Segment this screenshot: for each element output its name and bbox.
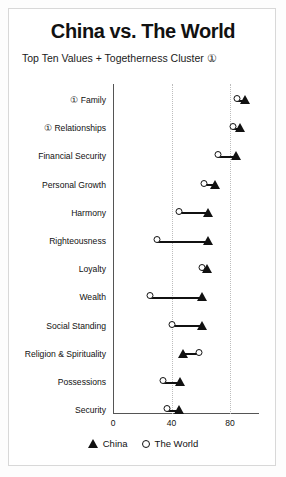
triangle-marker-icon bbox=[175, 377, 185, 386]
circle-marker-icon bbox=[146, 292, 153, 299]
triangle-marker-icon bbox=[235, 123, 245, 132]
category-label: Financial Security bbox=[0, 148, 106, 164]
chart-row: Righteousness bbox=[0, 233, 286, 249]
category-label: Wealth bbox=[0, 289, 106, 305]
circle-marker-icon bbox=[168, 321, 175, 328]
chart-row: ① Relationships bbox=[0, 120, 286, 136]
x-tick-label-0: 0 bbox=[111, 418, 116, 428]
chart-row: Harmony bbox=[0, 205, 286, 221]
triangle-marker-icon bbox=[197, 292, 207, 301]
triangle-marker-icon bbox=[210, 180, 220, 189]
x-tick-label-40: 40 bbox=[167, 418, 176, 428]
circle-marker-icon bbox=[164, 405, 171, 412]
category-label: Righteousness bbox=[0, 233, 106, 249]
circle-marker-icon bbox=[196, 349, 203, 356]
triangle-marker-icon bbox=[88, 439, 98, 448]
triangle-marker-icon bbox=[231, 151, 241, 160]
chart-legend: China The World bbox=[0, 438, 286, 449]
category-label: ① Relationships bbox=[0, 120, 106, 136]
circle-marker-icon bbox=[159, 377, 166, 384]
triangle-marker-icon bbox=[178, 349, 188, 358]
category-label: Harmony bbox=[0, 205, 106, 221]
chart-row: Wealth bbox=[0, 289, 286, 305]
chart-row: Personal Growth bbox=[0, 177, 286, 193]
triangle-marker-icon bbox=[203, 236, 213, 245]
chart-row: Possessions bbox=[0, 374, 286, 390]
x-tick-label-80: 80 bbox=[225, 418, 234, 428]
legend-label-world: The World bbox=[155, 438, 199, 449]
category-label: Social Standing bbox=[0, 318, 106, 334]
category-label: Possessions bbox=[0, 374, 106, 390]
category-label: Loyalty bbox=[0, 261, 106, 277]
plot-area: 04080① Family① RelationshipsFinancial Se… bbox=[0, 0, 286, 477]
triangle-marker-icon bbox=[174, 405, 184, 414]
chart-row: ① Family bbox=[0, 92, 286, 108]
chart-row: Loyalty bbox=[0, 261, 286, 277]
chart-row: Financial Security bbox=[0, 148, 286, 164]
circle-marker-icon bbox=[153, 236, 160, 243]
triangle-marker-icon bbox=[197, 321, 207, 330]
circle-marker-icon bbox=[200, 180, 207, 187]
chart-row: Social Standing bbox=[0, 318, 286, 334]
circle-marker-icon bbox=[215, 151, 222, 158]
chart-row: Religion & Spirituality bbox=[0, 346, 286, 362]
category-label: Personal Growth bbox=[0, 177, 106, 193]
circle-marker-icon bbox=[142, 440, 150, 448]
legend-label-china: China bbox=[103, 438, 128, 449]
category-label: Security bbox=[0, 402, 106, 418]
legend-item-china: China bbox=[88, 438, 128, 449]
triangle-marker-icon bbox=[203, 208, 213, 217]
chart-row: Security bbox=[0, 402, 286, 418]
category-label: ① Family bbox=[0, 92, 106, 108]
connector-line bbox=[150, 297, 203, 299]
triangle-marker-icon bbox=[240, 95, 250, 104]
category-label: Religion & Spirituality bbox=[0, 346, 106, 362]
connector-line bbox=[157, 241, 208, 243]
triangle-marker-icon bbox=[202, 264, 212, 273]
circle-marker-icon bbox=[175, 208, 182, 215]
chart-canvas: China vs. The World Top Ten Values + Tog… bbox=[0, 0, 286, 477]
legend-item-world: The World bbox=[142, 438, 199, 449]
